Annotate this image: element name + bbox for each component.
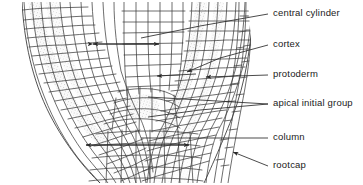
central-cylinder-cells [122, 2, 185, 96]
label-rootcap: rootcap [273, 160, 306, 170]
label-column: column [273, 132, 305, 142]
label-apical-initial-group: apical initial group [273, 98, 353, 108]
label-protoderm: protoderm [273, 69, 318, 79]
diagram-canvas [0, 0, 363, 185]
label-central-cylinder: central cylinder [273, 8, 340, 18]
leader-line-rootcap [233, 152, 268, 166]
root-tip-diagram: central cylinder cortex protoderm apical… [0, 0, 363, 185]
label-cortex: cortex [273, 39, 300, 49]
